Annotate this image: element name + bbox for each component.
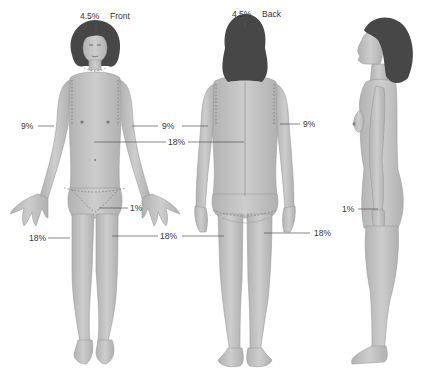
back-left-arm-percent: 9% [162,121,174,131]
trunk-percent: 18% [168,137,185,147]
side-figure [352,17,413,364]
back-view-label: Back [262,9,281,19]
rule-of-nines-diagram: 4.5% Front 4.5% Back 9% 9% 9% 18% 1% 1% … [0,0,432,377]
front-right-leg-percent: 18% [29,233,46,243]
front-view-label: Front [110,11,130,21]
back-leg-percent: 18% [314,228,331,238]
back-head-percent: 4.5% [232,9,251,19]
front-left-leg-percent: 18% [160,231,177,241]
back-right-arm-percent: 9% [303,119,315,129]
front-head-percent: 4.5% [80,11,99,21]
side-palm-percent: 1% [342,204,354,214]
front-right-arm-percent: 9% [21,121,33,131]
body-figures [0,0,432,377]
side-anatomy-marks [353,123,356,126]
front-genitalia-percent: 1% [130,203,142,213]
front-figure [10,20,180,364]
